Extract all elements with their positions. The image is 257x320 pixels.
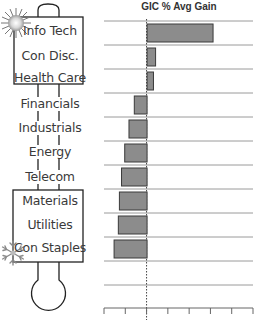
bar-industrials: [129, 120, 147, 138]
bar-con-staples: [114, 240, 147, 258]
bar-telecom: [122, 168, 148, 186]
bar-financials: [134, 96, 147, 114]
gic-gain-chart: GIC % Avg Gain: [0, 0, 257, 320]
bar-materials: [119, 192, 147, 210]
bar-health-care: [147, 72, 153, 90]
bar-info-tech: [147, 24, 213, 42]
bar-con-disc: [147, 48, 156, 66]
bar-energy: [125, 144, 147, 162]
bar-plot-area: [0, 0, 257, 320]
bar-utilities: [118, 216, 147, 234]
